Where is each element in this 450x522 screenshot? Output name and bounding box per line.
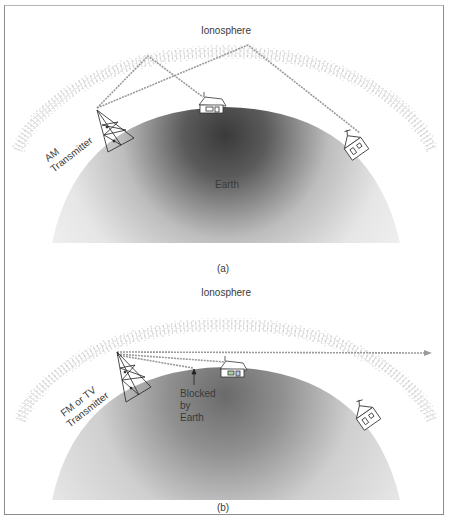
panel-b: Ionosphere Blocked by Earth (20, 287, 432, 513)
earth-b (52, 367, 400, 500)
wave-arrowhead-icon (424, 350, 432, 356)
house-near-b-icon (220, 356, 247, 377)
radio-propagation-diagram: Ionosphere Earth AM Transmitter (0, 0, 450, 522)
house-near-a-icon (199, 92, 226, 113)
earth-label-a: Earth (215, 179, 239, 190)
caption-a: (a) (217, 263, 229, 274)
earth-a (52, 107, 400, 243)
panel-a: Ionosphere Earth AM Transmitter (18, 25, 432, 274)
ionosphere-label-b: Ionosphere (201, 287, 251, 298)
ionosphere-label-a: Ionosphere (201, 25, 251, 36)
caption-b: (b) (217, 502, 229, 513)
